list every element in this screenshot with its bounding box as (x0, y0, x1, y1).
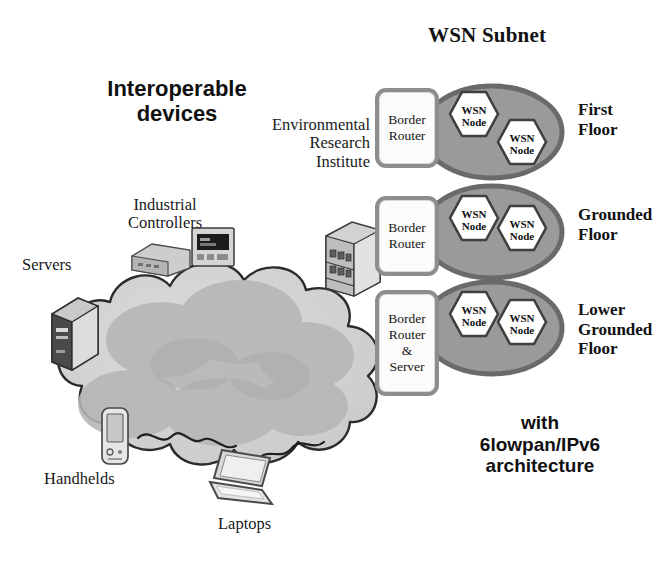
first-floor-label: First Floor (578, 100, 618, 139)
environmental-research-institute-label: Environmental Research Institute (232, 116, 370, 171)
subnet-first-floor: WSN Node WSN Node (418, 80, 566, 184)
subnet-lower-grounded-floor: WSN Node WSN Node (418, 276, 566, 380)
wsn-subnet-title: WSN Subnet (428, 24, 546, 48)
architecture-note-label: with 6lowpan/IPv6 architecture (440, 412, 640, 477)
laptops-label: Laptops (218, 515, 271, 533)
network-architecture-diagram: WSN Node WSN Node WSN Node WSN Node WSN … (0, 0, 672, 566)
server-tower-icon (48, 292, 102, 380)
lower-grounded-floor-label: Lower Grounded Floor (578, 300, 652, 359)
industrial-controller-icon (130, 240, 192, 284)
laptop-icon (200, 444, 284, 516)
handheld-pda-icon (96, 404, 136, 474)
border-router-grounded-floor[interactable]: Border Router (375, 196, 439, 276)
grounded-floor-label: Grounded Floor (578, 205, 652, 244)
border-router-first-floor[interactable]: Border Router (375, 88, 439, 168)
border-router-server-lower-grounded-floor[interactable]: Border Router & Server (375, 290, 439, 396)
industrial-controller-display-icon (186, 222, 240, 278)
subnet-grounded-floor: WSN Node WSN Node (418, 180, 566, 284)
